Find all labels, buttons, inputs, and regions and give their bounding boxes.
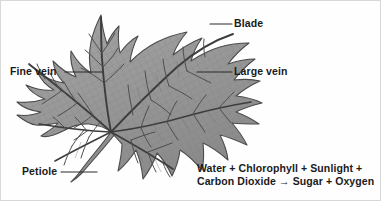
equation-line-2: Carbon Dioxide → Sugar + Oxygen: [197, 175, 377, 188]
label-fine-vein: Fine vein: [10, 65, 56, 77]
label-large-vein: Large vein: [234, 65, 288, 77]
equation-line-1: Water + Chlorophyll + Sunlight +: [197, 162, 377, 175]
label-blade: Blade: [234, 17, 263, 29]
leaf-structure-figure: Blade Large vein Fine vein Petiole Water…: [0, 0, 381, 201]
label-petiole: Petiole: [22, 165, 57, 177]
petiole-shape: [71, 132, 115, 182]
photosynthesis-equation: Water + Chlorophyll + Sunlight + Carbon …: [197, 162, 377, 187]
